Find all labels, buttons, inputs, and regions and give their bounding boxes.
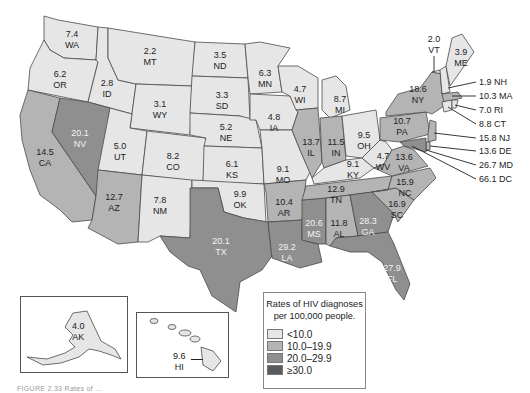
label-SC-abbr: SC — [391, 210, 404, 220]
label-HI-value: 9.6 — [173, 351, 186, 362]
legend-title-line1: Rates of HIV diagnoses — [264, 298, 365, 310]
label-KS-abbr: KS — [226, 170, 238, 180]
legend-label: ≥30.0 — [287, 365, 312, 376]
label-MT-value: 2.2 — [144, 46, 157, 56]
label-OH-value: 9.5 — [358, 130, 371, 140]
label-IA-abbr: IA — [270, 123, 279, 133]
state-HI[interactable] — [201, 347, 221, 371]
hawaii-inset: 9.6 HI — [136, 312, 229, 378]
label-NM-abbr: NM — [153, 206, 167, 216]
label-NE-value: 5.2 — [220, 122, 233, 132]
callout-DC: 66.1 DC — [479, 174, 513, 184]
label-MO-value: 9.1 — [277, 164, 290, 174]
state-NJ[interactable] — [428, 120, 436, 142]
label-TN-value: 12.9 — [327, 184, 345, 194]
label-WV-abbr: WV — [376, 162, 391, 172]
label-ID-abbr: ID — [103, 89, 113, 99]
label-AZ-abbr: AZ — [108, 203, 120, 213]
label-IN-value: 11.5 — [328, 137, 345, 147]
callout-NJ: 15.8 NJ — [479, 133, 510, 143]
label-GA-value: 28.3 — [359, 216, 377, 226]
label-ID-value: 2.8 — [101, 78, 114, 88]
legend-item-lt10: <10.0 — [267, 328, 365, 340]
label-CA-value: 14.5 — [36, 147, 54, 157]
label-WI-abbr: WI — [295, 95, 306, 105]
label-SD-abbr: SD — [216, 101, 229, 111]
label-WA-value: 7.4 — [66, 29, 79, 39]
label-AZ-value: 12.7 — [105, 192, 123, 202]
label-WY-abbr: WY — [153, 110, 168, 120]
label-MI-value: 8.7 — [334, 94, 347, 104]
label-VA-value: 13.6 — [395, 152, 413, 162]
label-NV-value: 20.1 — [71, 128, 89, 138]
label-ND-abbr: ND — [214, 61, 227, 71]
label-OR-abbr: OR — [53, 80, 67, 90]
legend-label: 10.0–19.9 — [287, 341, 332, 352]
label-OH-abbr: OH — [357, 141, 371, 151]
figure-caption: FIGURE 2.33 Rates of ... — [17, 385, 102, 392]
label-FL-abbr: FL — [387, 274, 398, 284]
label-PA-abbr: PA — [396, 127, 407, 137]
label-HI-abbr: HI — [173, 362, 186, 373]
label-FL-value: 27.9 — [383, 263, 401, 273]
label-ME-value: 3.9 — [455, 47, 468, 57]
label-IL-abbr: IL — [307, 148, 315, 158]
label-OK-value: 9.9 — [234, 189, 247, 199]
legend-swatch — [267, 365, 283, 375]
label-AR-value: 10.4 — [275, 197, 293, 207]
callout-MD: 26.7 MD — [479, 160, 514, 170]
label-WA-abbr: WA — [65, 40, 79, 50]
label-NM-value: 7.8 — [154, 195, 167, 205]
callout-NH: 1.9 NH — [479, 77, 507, 87]
label-MS-value: 20.6 — [305, 218, 323, 228]
label-MT-abbr: MT — [144, 57, 157, 67]
label-NY-abbr: NY — [412, 95, 425, 105]
label-TX-value: 20.1 — [212, 236, 230, 246]
legend-item-gte30: ≥30.0 — [267, 364, 365, 376]
label-CA-abbr: CA — [39, 158, 52, 168]
legend-item-20-29: 20.0–29.9 — [267, 352, 365, 364]
label-WY-value: 3.1 — [154, 99, 167, 109]
label-ND-value: 3.5 — [214, 50, 227, 60]
legend-swatch — [267, 329, 283, 339]
label-AK-abbr: AK — [72, 332, 85, 343]
label-MI-abbr: MI — [335, 105, 345, 115]
legend-swatch — [267, 353, 283, 363]
label-MN-abbr: MN — [258, 79, 272, 89]
label-NC-value: 15.9 — [396, 177, 414, 187]
label-AL-abbr: AL — [333, 229, 344, 239]
callout-CT: 8.8 CT — [479, 119, 507, 129]
label-AK-value: 4.0 — [72, 321, 85, 332]
label-TN-abbr: TN — [330, 195, 342, 205]
legend-label: <10.0 — [287, 329, 312, 340]
legend-item-10-19: 10.0–19.9 — [267, 340, 365, 352]
label-OK-abbr: OK — [233, 200, 246, 210]
label-LA-value: 29.2 — [278, 242, 296, 252]
label-NV-abbr: NV — [74, 139, 87, 149]
label-TX-abbr: TX — [215, 247, 227, 257]
label-VA-abbr: VA — [398, 163, 409, 173]
label-MO-abbr: MO — [276, 175, 291, 185]
label-OR-value: 6.2 — [54, 69, 67, 79]
label-IL-value: 13.7 — [302, 137, 320, 147]
label-MS-abbr: MS — [307, 229, 321, 239]
legend: Rates of HIV diagnoses per 100,000 peopl… — [263, 292, 366, 389]
label-SD-value: 3.3 — [216, 90, 229, 100]
label-MN-value: 6.3 — [259, 68, 272, 78]
label-PA-value: 10.7 — [393, 116, 411, 126]
label-NY-value: 18.6 — [409, 84, 427, 94]
legend-label: 20.0–29.9 — [287, 353, 332, 364]
label-UT-value: 5.0 — [114, 141, 127, 151]
state-ND[interactable] — [192, 42, 248, 78]
state-NY[interactable] — [386, 72, 444, 116]
callout-MA: 10.3 MA — [479, 91, 513, 101]
label-NE-abbr: NE — [220, 133, 233, 143]
legend-swatch — [267, 341, 283, 351]
state-DE[interactable] — [426, 142, 430, 150]
callout-RI: 7.0 RI — [479, 105, 503, 115]
alaska-inset: 4.0 AK — [20, 296, 128, 373]
label-CO-value: 8.2 — [167, 151, 180, 161]
state-RI[interactable] — [452, 100, 458, 108]
state-CT[interactable] — [442, 100, 452, 112]
label-IN-abbr: IN — [332, 148, 341, 158]
